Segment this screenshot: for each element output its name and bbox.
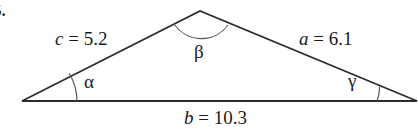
side-value: 5.2	[84, 28, 108, 49]
side-variable: a	[299, 28, 309, 49]
side-value: 10.3	[214, 107, 247, 128]
angle-arc-beta	[174, 24, 228, 39]
side-variable: b	[184, 107, 194, 128]
side-label-b: b = 10.3	[184, 108, 247, 127]
triangle-outline	[22, 11, 417, 101]
angle-label-beta: β	[194, 42, 204, 61]
equals-sign: =	[63, 28, 83, 49]
side-value: 6.1	[329, 28, 353, 49]
angle-label-gamma: γ	[348, 71, 356, 90]
side-label-c: c = 5.2	[55, 29, 107, 48]
side-label-a: a = 6.1	[299, 29, 352, 48]
equals-sign: =	[309, 28, 329, 49]
equals-sign: =	[194, 107, 214, 128]
problem-number: 5.	[0, 2, 6, 19]
angle-arc-gamma	[377, 87, 380, 102]
triangle-figure: 5. c = 5.2 a = 6.1 b = 10.3 α β γ	[0, 0, 418, 134]
angle-label-alpha: α	[84, 72, 94, 91]
